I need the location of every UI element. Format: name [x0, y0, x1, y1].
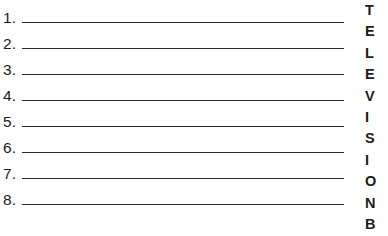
column-letter: V — [356, 86, 388, 107]
answer-write-line[interactable] — [22, 100, 344, 101]
answer-row[interactable]: 5. — [0, 104, 348, 130]
vertical-letter-column: T E L E V I S I O N B — [356, 0, 388, 236]
answer-row-number: 7. — [0, 165, 22, 182]
answer-write-line[interactable] — [22, 178, 344, 179]
answer-row-number: 6. — [0, 139, 22, 156]
answer-row[interactable]: 7. — [0, 156, 348, 182]
answer-write-line[interactable] — [22, 204, 344, 205]
answer-line-list: 1. 2. 3. 4. 5. 6. 7. 8. — [0, 0, 348, 236]
column-letter: I — [356, 150, 388, 171]
column-letter: T — [356, 0, 388, 21]
column-letter: N — [356, 193, 388, 214]
answer-row-number: 4. — [0, 87, 22, 104]
answer-row[interactable]: 6. — [0, 130, 348, 156]
column-letter: S — [356, 128, 388, 149]
answer-row[interactable]: 4. — [0, 78, 348, 104]
answer-row-number: 2. — [0, 35, 22, 52]
answer-write-line[interactable] — [22, 152, 344, 153]
answer-write-line[interactable] — [22, 22, 344, 23]
column-letter: E — [356, 21, 388, 42]
answer-write-line[interactable] — [22, 74, 344, 75]
worksheet-page: 1. 2. 3. 4. 5. 6. 7. 8. — [0, 0, 388, 236]
answer-row-number: 5. — [0, 113, 22, 130]
answer-row[interactable]: 8. — [0, 182, 348, 208]
answer-write-line[interactable] — [22, 126, 344, 127]
answer-write-line[interactable] — [22, 48, 344, 49]
answer-row[interactable]: 3. — [0, 52, 348, 78]
answer-row[interactable]: 1. — [0, 0, 348, 26]
answer-row-number: 8. — [0, 191, 22, 208]
answer-row-number: 3. — [0, 61, 22, 78]
answer-row-number: 1. — [0, 9, 22, 26]
column-letter: I — [356, 107, 388, 128]
answer-row[interactable]: 2. — [0, 26, 348, 52]
column-letter: B — [356, 214, 388, 235]
column-letter: O — [356, 171, 388, 192]
column-letter: E — [356, 64, 388, 85]
column-letter: L — [356, 43, 388, 64]
